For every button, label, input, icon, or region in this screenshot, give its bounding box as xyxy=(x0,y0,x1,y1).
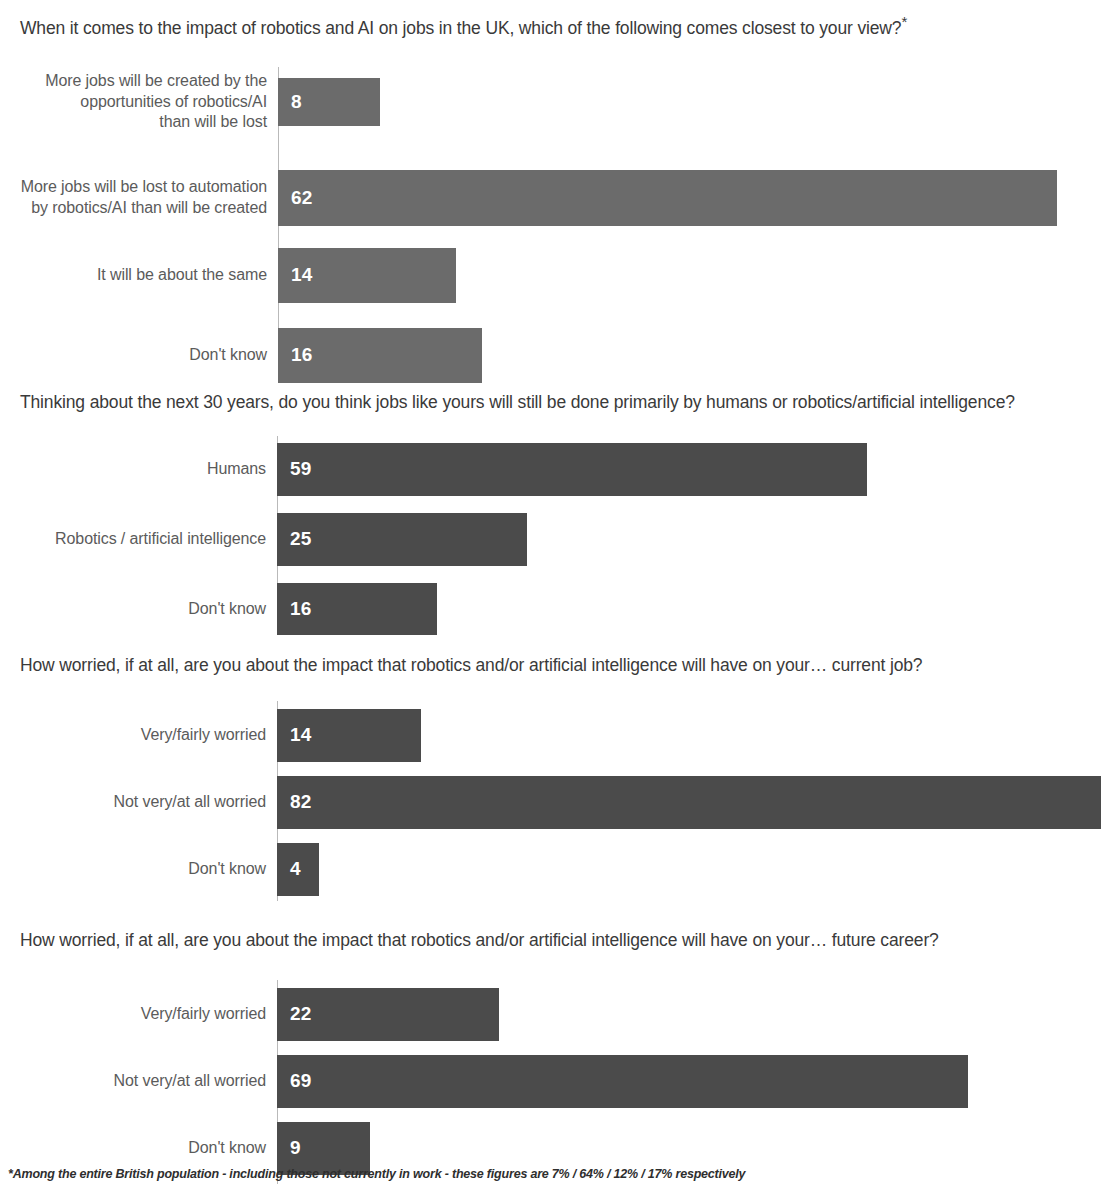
chart-1-row-3: Don't know 16 xyxy=(0,328,1111,383)
chart-1-category-label-2: It will be about the same xyxy=(0,265,278,285)
chart-3-bar-value-1: 82 xyxy=(277,791,311,813)
cat-line: Robotics / artificial intelligence xyxy=(0,529,266,549)
cat-line: opportunities of robotics/AI xyxy=(0,92,267,112)
cat-line: More jobs will be lost to automation xyxy=(0,177,267,197)
chart-3-plot: Very/fairly worried 14 Not very/at all w… xyxy=(0,677,1111,892)
chart-2-row-1: Robotics / artificial intelligence 25 xyxy=(0,513,1111,566)
chart-2-bar-value-0: 59 xyxy=(277,458,311,480)
cat-line: Not very/at all worried xyxy=(0,1071,266,1091)
chart-2-row-0: Humans 59 xyxy=(0,443,1111,496)
chart-2-bar-0[interactable]: 59 xyxy=(277,443,867,496)
cat-line: Humans xyxy=(0,459,266,479)
chart-4-category-label-0: Very/fairly worried xyxy=(0,1004,277,1024)
chart-1-row-2: It will be about the same 14 xyxy=(0,248,1111,303)
cat-line: Don't know xyxy=(0,345,267,365)
chart-3-category-label-1: Not very/at all worried xyxy=(0,792,277,812)
chart-4-category-label-2: Don't know xyxy=(0,1138,277,1158)
chart-2-category-label-2: Don't know xyxy=(0,599,277,619)
chart-4-category-label-1: Not very/at all worried xyxy=(0,1071,277,1091)
chart-2-category-label-0: Humans xyxy=(0,459,277,479)
chart-2-bar-2[interactable]: 16 xyxy=(277,583,437,635)
chart-2-plot: Humans 59 Robotics / artificial intellig… xyxy=(0,414,1111,626)
chart-2-bar-value-1: 25 xyxy=(277,528,311,550)
footnote: *Among the entire British population - i… xyxy=(8,1167,745,1181)
chart-3-bar-value-0: 14 xyxy=(277,724,311,746)
cat-line: Very/fairly worried xyxy=(0,725,266,745)
chart-3-category-label-2: Don't know xyxy=(0,859,277,879)
cat-line: Don't know xyxy=(0,1138,266,1158)
chart-block-2: Thinking about the next 30 years, do you… xyxy=(0,392,1111,626)
cat-line: Very/fairly worried xyxy=(0,1004,266,1024)
cat-line: Don't know xyxy=(0,599,266,619)
chart-title-2-text: Thinking about the next 30 years, do you… xyxy=(20,392,1015,412)
chart-3-row-1: Not very/at all worried 82 xyxy=(0,776,1111,829)
chart-title-1-footnote-marker: * xyxy=(901,13,907,30)
chart-2-row-2: Don't know 16 xyxy=(0,583,1111,635)
chart-1-category-label-3: Don't know xyxy=(0,345,278,365)
chart-title-1-text: When it comes to the impact of robotics … xyxy=(20,18,901,38)
chart-3-category-label-0: Very/fairly worried xyxy=(0,725,277,745)
chart-title-1: When it comes to the impact of robotics … xyxy=(0,18,1111,40)
chart-title-3: How worried, if at all, are you about th… xyxy=(0,655,1111,677)
chart-1-category-label-0: More jobs will be created by the opportu… xyxy=(0,71,278,132)
chart-block-3: How worried, if at all, are you about th… xyxy=(0,655,1111,892)
chart-title-4: How worried, if at all, are you about th… xyxy=(0,930,1111,952)
chart-1-bar-value-0: 8 xyxy=(278,91,302,113)
chart-3-row-0: Very/fairly worried 14 xyxy=(0,709,1111,762)
chart-2-bar-value-2: 16 xyxy=(277,598,311,620)
chart-block-4: How worried, if at all, are you about th… xyxy=(0,930,1111,1167)
chart-title-3-text: How worried, if at all, are you about th… xyxy=(20,655,922,675)
chart-3-bar-0[interactable]: 14 xyxy=(277,709,421,762)
chart-1-bar-0[interactable]: 8 xyxy=(278,78,380,126)
chart-1-bar-value-3: 16 xyxy=(278,344,312,366)
cat-line: More jobs will be created by the xyxy=(0,71,267,91)
chart-1-bar-3[interactable]: 16 xyxy=(278,328,482,383)
chart-4-bar-value-0: 22 xyxy=(277,1003,311,1025)
chart-1-bar-1[interactable]: 62 xyxy=(278,170,1057,226)
cat-line: Don't know xyxy=(0,859,266,879)
chart-4-row-0: Very/fairly worried 22 xyxy=(0,988,1111,1041)
chart-title-2: Thinking about the next 30 years, do you… xyxy=(0,392,1111,414)
chart-4-bar-value-1: 69 xyxy=(277,1070,311,1092)
chart-1-bar-2[interactable]: 14 xyxy=(278,248,456,303)
chart-2-category-label-1: Robotics / artificial intelligence xyxy=(0,529,277,549)
chart-2-bar-1[interactable]: 25 xyxy=(277,513,527,566)
chart-4-bar-0[interactable]: 22 xyxy=(277,988,499,1041)
chart-4-plot: Very/fairly worried 22 Not very/at all w… xyxy=(0,952,1111,1167)
chart-1-row-1: More jobs will be lost to automation by … xyxy=(0,170,1111,226)
chart-3-row-2: Don't know 4 xyxy=(0,843,1111,896)
chart-4-bar-value-2: 9 xyxy=(277,1137,301,1159)
chart-3-bar-2[interactable]: 4 xyxy=(277,843,319,896)
chart-title-4-text: How worried, if at all, are you about th… xyxy=(20,930,939,950)
cat-line: Not very/at all worried xyxy=(0,792,266,812)
cat-line: It will be about the same xyxy=(0,265,267,285)
chart-1-bar-value-2: 14 xyxy=(278,264,312,286)
cat-line: than will be lost xyxy=(0,112,267,132)
chart-1-bar-value-1: 62 xyxy=(278,187,312,209)
chart-block-1: When it comes to the impact of robotics … xyxy=(0,18,1111,377)
chart-1-row-0: More jobs will be created by the opportu… xyxy=(0,78,1111,126)
chart-3-bar-1[interactable]: 82 xyxy=(277,776,1101,829)
chart-4-row-1: Not very/at all worried 69 xyxy=(0,1055,1111,1108)
chart-1-category-label-1: More jobs will be lost to automation by … xyxy=(0,177,278,218)
chart-4-bar-1[interactable]: 69 xyxy=(277,1055,968,1108)
cat-line: by robotics/AI than will be created xyxy=(0,198,267,218)
chart-3-bar-value-2: 4 xyxy=(277,858,301,880)
chart-1-plot: More jobs will be created by the opportu… xyxy=(0,40,1111,377)
